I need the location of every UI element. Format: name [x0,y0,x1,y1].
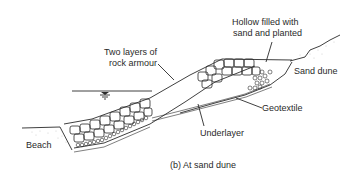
rock-leader [158,64,174,80]
figure-caption: (b) At sand dune [170,160,236,171]
diagram-canvas: Hollow filled with sand and planted Two … [0,0,352,185]
sand-stipple [32,42,335,143]
label-rock-line1: Two layers of [104,47,157,58]
label-rock-line2: rock armour [109,58,157,69]
water-level-icon [100,92,110,99]
hollow-leader [266,42,272,62]
label-underlayer: Underlayer [200,128,244,139]
label-hollow-line2: sand and planted [233,28,302,39]
geotextile-leader [236,98,262,108]
label-beach: Beach [26,140,52,151]
label-geotextile: Geotextile [262,103,303,114]
rock-armour-crest [198,59,260,88]
label-sand-dune: Sand dune [294,66,338,77]
label-hollow-line1: Hollow filled with [232,17,299,28]
